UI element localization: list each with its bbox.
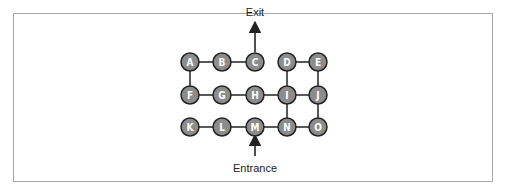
node-I: I	[278, 86, 296, 104]
exit-label: Exit	[246, 6, 264, 18]
entrance-label: Entrance	[233, 162, 277, 174]
node-G: G	[213, 86, 231, 104]
node-label: L	[219, 122, 225, 133]
node-A: A	[181, 53, 199, 71]
node-F: F	[181, 86, 199, 104]
node-label: C	[252, 57, 259, 68]
node-label: M	[251, 122, 260, 133]
node-label: F	[187, 90, 193, 101]
node-label: E	[315, 57, 321, 68]
node-label: O	[314, 122, 322, 133]
node-O: O	[309, 118, 327, 136]
node-K: K	[181, 118, 199, 136]
node-J: J	[309, 86, 327, 104]
node-label: K	[187, 122, 195, 133]
node-label: G	[218, 90, 225, 101]
node-C: C	[246, 53, 264, 71]
node-B: B	[213, 53, 231, 71]
node-label: J	[315, 90, 319, 101]
node-label: B	[219, 57, 226, 68]
node-label: A	[187, 57, 194, 68]
node-label: H	[251, 90, 259, 101]
node-D: D	[278, 53, 296, 71]
maze-graph-diagram: ABCDEFGHIJKLMNO Exit Entrance	[0, 0, 508, 190]
node-M: M	[246, 118, 264, 136]
node-N: N	[278, 118, 296, 136]
node-H: H	[246, 86, 264, 104]
node-label: D	[283, 57, 290, 68]
node-label: N	[283, 122, 291, 133]
node-label: I	[285, 90, 288, 101]
node-E: E	[309, 53, 327, 71]
node-L: L	[213, 118, 231, 136]
